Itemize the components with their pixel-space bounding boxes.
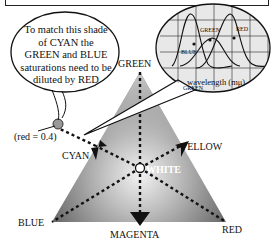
callout-text: To match this shade of CYAN the GREEN an… (14, 24, 118, 87)
callout-line: To match this shade (14, 24, 118, 37)
sample-point (53, 119, 63, 129)
center-white: WHITE (146, 164, 181, 175)
callout-line: of CYAN the (14, 37, 118, 50)
vertex-red: RED (222, 224, 242, 235)
inset-xlabel: wavelength (mμ) (187, 77, 245, 88)
inset-label-green: GREEN (200, 25, 220, 36)
sample-label: (red = 0.4) (14, 131, 57, 142)
edge-magenta: MAGENTA (110, 229, 159, 240)
callout-line: saturations need to be (14, 62, 118, 75)
inset-label-blue: BLUE (181, 47, 197, 58)
vertex-blue: BLUE (18, 217, 44, 228)
white-point (136, 164, 145, 173)
callout-line: GREEN and BLUE (14, 49, 118, 62)
vertex-green: GREEN (118, 58, 151, 69)
edge-cyan: CYAN (62, 150, 89, 161)
callout-line: diluted by RED (14, 74, 118, 87)
inset-label-red: RED (236, 24, 248, 35)
edge-yellow: YELLOW (180, 141, 222, 152)
